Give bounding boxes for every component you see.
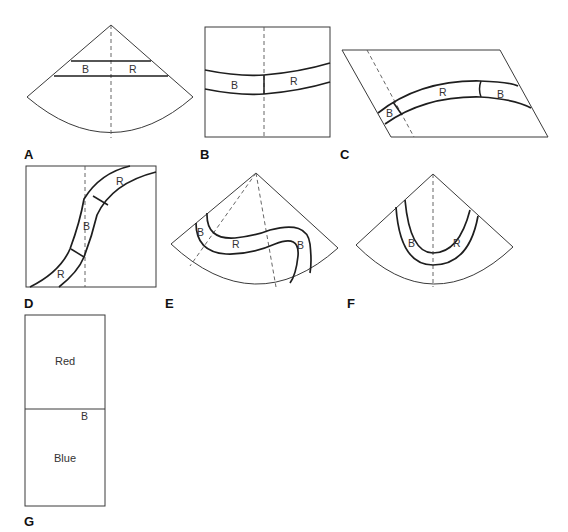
panel-g-label: G [24, 514, 34, 529]
panel-d-layer-middle-label: B [83, 220, 90, 232]
panel-b-layer-left-label: B [231, 79, 238, 91]
panel-b-layer-bottom [205, 82, 330, 94]
panel-a: B R A [24, 25, 193, 162]
panel-e-layer-middle-label: R [232, 238, 240, 250]
panel-f: B R F [347, 174, 513, 311]
panel-f-layer-outer [396, 207, 478, 265]
panel-b: B R B [200, 27, 330, 162]
panel-a-label: A [24, 147, 34, 162]
panel-g-bottom-region-label: Blue [54, 452, 76, 464]
panel-d-layer-top-label: R [116, 175, 124, 187]
panel-d-boundary-lower [71, 249, 84, 257]
panel-d-layer-left [30, 166, 130, 287]
panel-b-layer-right-label: R [290, 75, 298, 87]
panel-g-boundary-label: B [81, 410, 88, 422]
panel-b-square-outline [205, 27, 330, 137]
panel-f-layer-left-label: B [408, 237, 415, 249]
panel-e-label: E [165, 296, 174, 311]
panel-g-top-region-label: Red [55, 355, 75, 367]
panel-e-layer-left-label: B [197, 226, 204, 238]
panel-d-layer-bottom-label: R [57, 268, 65, 280]
panel-e-layer-outer [196, 223, 298, 283]
panel-e-layer-right-label: B [297, 239, 304, 251]
panel-d: R B R D [24, 166, 156, 311]
panel-g: Red Blue B G [24, 315, 105, 529]
panel-a-layer-right-label: R [129, 63, 137, 75]
panel-c-layer-middle-label: R [439, 86, 447, 98]
panel-c-boundary-left [393, 102, 402, 115]
panel-e: B R B E [165, 173, 338, 311]
panel-c-layer-right-label: B [497, 88, 504, 100]
panel-d-layer-right [59, 172, 156, 287]
panel-c-layer-left-label: B [386, 107, 393, 119]
figure-canvas: B R A B R B B R B C R B R D [0, 0, 568, 532]
panel-g-rectangle-outline [25, 315, 105, 506]
panel-c-layer-bottom [385, 97, 531, 124]
panel-f-layer-right-label: R [453, 237, 461, 249]
panel-c-label: C [340, 147, 350, 162]
panel-c-axis [367, 50, 414, 137]
panel-f-label: F [347, 296, 355, 311]
panel-b-label: B [200, 147, 209, 162]
panel-f-sector-outline [356, 174, 513, 284]
panel-c: B R B C [340, 50, 548, 162]
panel-d-label: D [24, 296, 33, 311]
panel-a-layer-left-label: B [82, 63, 89, 75]
panel-a-sector-outline [27, 25, 193, 133]
panel-d-square-outline [26, 166, 156, 287]
panel-b-layer-top [205, 63, 330, 75]
panel-c-boundary-right [480, 81, 482, 97]
